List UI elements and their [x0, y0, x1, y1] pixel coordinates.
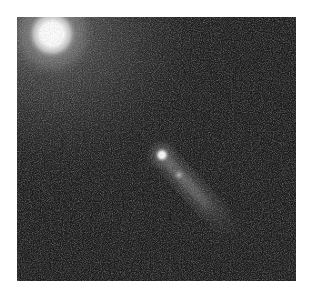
comet-photo: [17, 17, 296, 281]
image-noise: [17, 17, 296, 281]
astronomical-image: [17, 17, 296, 281]
